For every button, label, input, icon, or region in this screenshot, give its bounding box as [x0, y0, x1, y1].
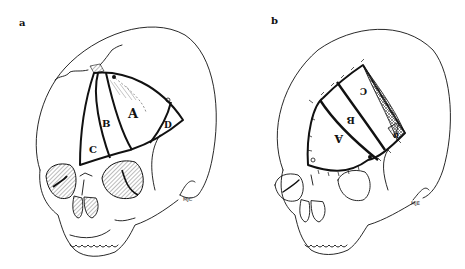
- flap-label-b-A: A: [334, 132, 344, 145]
- artist-signature-b: MJE: [411, 200, 420, 206]
- flap-label-b-B: B: [347, 115, 355, 126]
- artist-signature-a: MJC: [183, 196, 192, 202]
- panel-a: a: [0, 0, 232, 269]
- flap-label-a-B: B: [102, 118, 110, 129]
- flap-label-a-D: D: [164, 120, 172, 130]
- panel-b: b: [233, 0, 465, 269]
- flap-label-a-C: C: [89, 144, 97, 155]
- flap-label-b-C: C: [360, 86, 367, 96]
- flap-label-b-D: D: [393, 131, 399, 140]
- skull-illustration-a: A B C D: [0, 0, 232, 269]
- skull-illustration-b: A B C D: [233, 0, 465, 269]
- flap-label-a-A: A: [127, 106, 139, 121]
